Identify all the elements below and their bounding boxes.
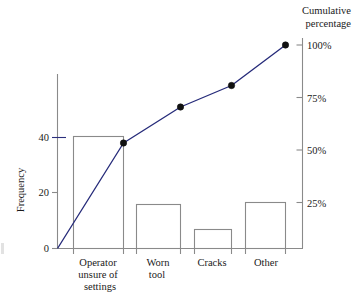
secondary-axis-label-line1: Cumulative bbox=[302, 5, 351, 16]
cumulative-marker-1 bbox=[120, 140, 126, 146]
bar-worn-tool bbox=[137, 205, 181, 249]
right-tick-label-75: 75% bbox=[307, 93, 327, 104]
category-label-worn-tool-line2: tool bbox=[149, 269, 165, 280]
bar-cracks bbox=[195, 230, 232, 249]
pareto-chart-svg: 0 20 40 Frequency 100% 75% 50% 25% Cumul… bbox=[0, 0, 358, 298]
right-tick-label-50: 50% bbox=[307, 145, 327, 156]
cumulative-marker-2 bbox=[177, 104, 183, 110]
left-tick-label-20: 20 bbox=[39, 187, 50, 198]
cumulative-marker-3 bbox=[228, 82, 234, 88]
y-axis-label: Frequency bbox=[15, 167, 26, 212]
left-tick-label-40: 40 bbox=[39, 132, 50, 143]
category-label-other: Other bbox=[254, 257, 278, 268]
right-tick-label-25: 25% bbox=[307, 198, 327, 209]
bar-operator-unsure-of-settings bbox=[74, 137, 124, 249]
right-tick-label-100: 100% bbox=[307, 40, 332, 51]
pareto-chart: 0 20 40 Frequency 100% 75% 50% 25% Cumul… bbox=[0, 0, 358, 298]
category-label-operator-line1: Operator bbox=[79, 257, 117, 268]
category-label-operator-line3: settings bbox=[84, 281, 116, 292]
category-label-cracks: Cracks bbox=[197, 257, 226, 268]
category-label-operator-line2: unsure of bbox=[78, 269, 118, 280]
cumulative-marker-4 bbox=[282, 42, 288, 48]
left-tick-label-0: 0 bbox=[44, 243, 49, 254]
category-label-worn-tool-line1: Worn bbox=[146, 257, 170, 268]
secondary-axis-label-line2: percentage bbox=[306, 18, 352, 29]
bar-other bbox=[246, 203, 286, 249]
